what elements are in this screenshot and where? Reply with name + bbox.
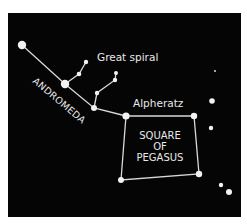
constellation-diagram: Great spiral Alpheratz ANDROMEDA SQUARE …: [0, 0, 247, 224]
star-icon: [209, 126, 213, 130]
star-icon: [84, 60, 88, 64]
star-icon: [196, 171, 202, 177]
star-icon: [95, 91, 99, 95]
star-icon: [91, 105, 97, 111]
star-icon: [114, 71, 118, 75]
star-icon: [219, 183, 223, 187]
star-icon: [61, 80, 69, 88]
great-spiral-label: Great spiral: [97, 51, 158, 63]
andromeda-label: ANDROMEDA: [31, 75, 88, 126]
square-label-line1: SQUARE: [139, 130, 181, 141]
square-label-line2: OF: [153, 141, 167, 152]
alpheratz-label: Alpheratz: [133, 97, 184, 109]
stars: [18, 41, 232, 195]
star-icon: [118, 177, 124, 183]
star-icon: [209, 98, 215, 104]
star-icon: [77, 72, 82, 77]
star-icon: [226, 189, 232, 195]
star-icon: [214, 70, 216, 72]
star-icon: [113, 78, 117, 82]
alpheratz-star-icon: [122, 112, 129, 119]
star-icon: [191, 113, 197, 119]
square-label-line3: PEGASUS: [137, 152, 184, 163]
star-icon: [18, 41, 26, 49]
